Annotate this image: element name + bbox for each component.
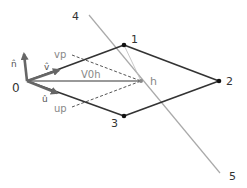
vector-diagram: 0 1 2 3 h 4 5 n̂ v̂ û vp V0h up xyxy=(0,0,247,188)
label-point-h: h xyxy=(150,75,157,88)
point-h xyxy=(139,79,143,83)
label-u-hat: û xyxy=(42,94,48,104)
label-n-hat: n̂ xyxy=(11,59,17,69)
label-v-hat: v̂ xyxy=(44,62,50,72)
vertex-2 xyxy=(217,79,222,84)
label-point-0: 0 xyxy=(12,81,20,95)
label-point-1: 1 xyxy=(131,33,138,46)
edge-2-3 xyxy=(124,81,219,116)
label-endpoint-4: 4 xyxy=(72,10,79,23)
vector-v-hat xyxy=(27,70,59,81)
vector-n-hat xyxy=(24,54,27,81)
vertex-3 xyxy=(122,114,127,119)
label-endpoint-5: 5 xyxy=(229,170,236,183)
label-v0h: V0h xyxy=(81,69,101,80)
vertex-1 xyxy=(122,43,127,48)
segment-up xyxy=(72,81,141,107)
vector-u-hat xyxy=(27,81,57,93)
cut-line-4-5 xyxy=(89,15,220,173)
label-point-3: 3 xyxy=(111,117,118,130)
label-up: up xyxy=(54,103,67,114)
label-point-2: 2 xyxy=(226,75,233,88)
label-vp: vp xyxy=(54,49,66,60)
